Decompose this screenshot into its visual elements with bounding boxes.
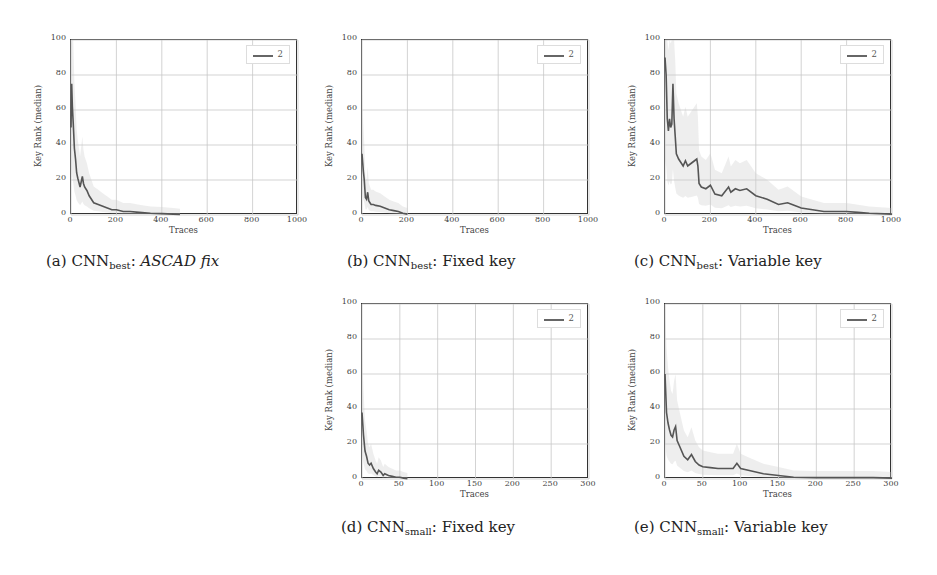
x-tick-label: 200 — [391, 215, 421, 224]
caption-subscript: small — [697, 526, 724, 537]
x-tick-label: 0 — [649, 215, 679, 224]
x-tick-label: 800 — [237, 215, 267, 224]
y-tick-label: 40 — [638, 402, 660, 411]
y-tick-label: 100 — [335, 297, 357, 306]
x-axis-label: Traces — [748, 225, 808, 235]
legend-label: 2 — [569, 313, 574, 323]
x-tick-label: 100 — [422, 479, 452, 488]
y-axis-label: Key Rank (median) — [324, 66, 334, 186]
caption-text: ASCAD fix — [140, 252, 219, 270]
x-axis-label: Traces — [154, 225, 214, 235]
x-tick-label: 200 — [800, 479, 830, 488]
x-tick-label: 600 — [785, 215, 815, 224]
legend: 2 — [537, 45, 581, 64]
caption-text: Fixed key — [442, 252, 515, 270]
y-axis-label: Key Rank (median) — [33, 66, 43, 186]
x-tick-label: 1000 — [876, 215, 906, 224]
x-axis-label: Traces — [445, 489, 505, 499]
legend-label: 2 — [872, 49, 877, 59]
caption-text: Variable key — [728, 252, 822, 270]
caption-separator: : — [131, 252, 141, 270]
plot-area: 2 — [361, 39, 588, 214]
plot-area: 2 — [70, 39, 297, 214]
x-tick-label: 50 — [687, 479, 717, 488]
y-tick-label: 40 — [335, 138, 357, 147]
caption-separator: : — [432, 518, 442, 536]
legend-swatch — [253, 55, 273, 57]
y-tick-label: 80 — [638, 332, 660, 341]
caption-subscript: best — [411, 260, 432, 271]
y-tick-label: 60 — [335, 367, 357, 376]
y-tick-label: 100 — [335, 33, 357, 42]
line-chart-svg — [362, 304, 589, 479]
x-tick-label: 300 — [876, 479, 906, 488]
y-tick-label: 80 — [335, 68, 357, 77]
x-tick-label: 0 — [649, 479, 679, 488]
y-axis-label: Key Rank (median) — [627, 330, 637, 450]
y-tick-label: 100 — [638, 297, 660, 306]
y-tick-label: 60 — [335, 103, 357, 112]
legend-swatch — [544, 319, 564, 321]
x-tick-label: 250 — [838, 479, 868, 488]
plot-area: 2 — [664, 303, 891, 478]
caption-subscript: small — [405, 526, 432, 537]
x-tick-label: 200 — [497, 479, 527, 488]
x-tick-label: 400 — [437, 215, 467, 224]
confidence-band — [362, 347, 407, 478]
x-tick-label: 1000 — [282, 215, 312, 224]
x-tick-label: 800 — [831, 215, 861, 224]
confidence-band — [71, 40, 180, 215]
x-tick-label: 250 — [535, 479, 565, 488]
y-tick-label: 40 — [638, 138, 660, 147]
legend-swatch — [847, 55, 867, 57]
y-tick-label: 20 — [335, 173, 357, 182]
y-axis-label: Key Rank (median) — [324, 330, 334, 450]
x-tick-label: 1000 — [573, 215, 603, 224]
y-tick-label: 20 — [44, 173, 66, 182]
subfigure-caption: (c) CNNbest: Variable key — [634, 252, 822, 271]
legend-label: 2 — [872, 313, 877, 323]
caption-subscript: best — [109, 260, 130, 271]
line-chart-svg — [665, 40, 892, 215]
plot-area: 2 — [664, 39, 891, 214]
x-tick-label: 0 — [55, 215, 85, 224]
x-tick-label: 400 — [740, 215, 770, 224]
subfigure-caption: (d) CNNsmall: Fixed key — [341, 518, 515, 537]
caption-prefix: (d) CNN — [341, 518, 405, 536]
legend: 2 — [246, 45, 290, 64]
x-tick-label: 400 — [146, 215, 176, 224]
caption-text: Fixed key — [442, 518, 515, 536]
y-tick-label: 60 — [638, 367, 660, 376]
subfigure-caption: (b) CNNbest: Fixed key — [347, 252, 515, 271]
x-tick-label: 600 — [191, 215, 221, 224]
x-tick-label: 600 — [482, 215, 512, 224]
line-chart-svg — [71, 40, 298, 215]
legend-swatch — [847, 319, 867, 321]
y-tick-label: 100 — [44, 33, 66, 42]
line-chart-svg — [362, 40, 589, 215]
legend: 2 — [537, 309, 581, 328]
legend-swatch — [544, 55, 564, 57]
y-tick-label: 60 — [638, 103, 660, 112]
confidence-band — [665, 40, 892, 215]
x-tick-label: 200 — [100, 215, 130, 224]
y-tick-label: 100 — [638, 33, 660, 42]
x-tick-label: 150 — [763, 479, 793, 488]
caption-prefix: (c) CNN — [634, 252, 697, 270]
x-tick-label: 0 — [346, 215, 376, 224]
x-tick-label: 0 — [346, 479, 376, 488]
y-tick-label: 40 — [335, 402, 357, 411]
plot-area: 2 — [361, 303, 588, 478]
x-tick-label: 150 — [460, 479, 490, 488]
legend: 2 — [840, 45, 884, 64]
y-tick-label: 80 — [638, 68, 660, 77]
x-tick-label: 800 — [528, 215, 558, 224]
x-tick-label: 200 — [694, 215, 724, 224]
line-chart-svg — [665, 304, 892, 479]
subfigure-caption: (e) CNNsmall: Variable key — [634, 518, 828, 537]
y-tick-label: 20 — [335, 437, 357, 446]
y-tick-label: 20 — [638, 437, 660, 446]
caption-prefix: (b) CNN — [347, 252, 411, 270]
y-tick-label: 80 — [44, 68, 66, 77]
y-tick-label: 60 — [44, 103, 66, 112]
